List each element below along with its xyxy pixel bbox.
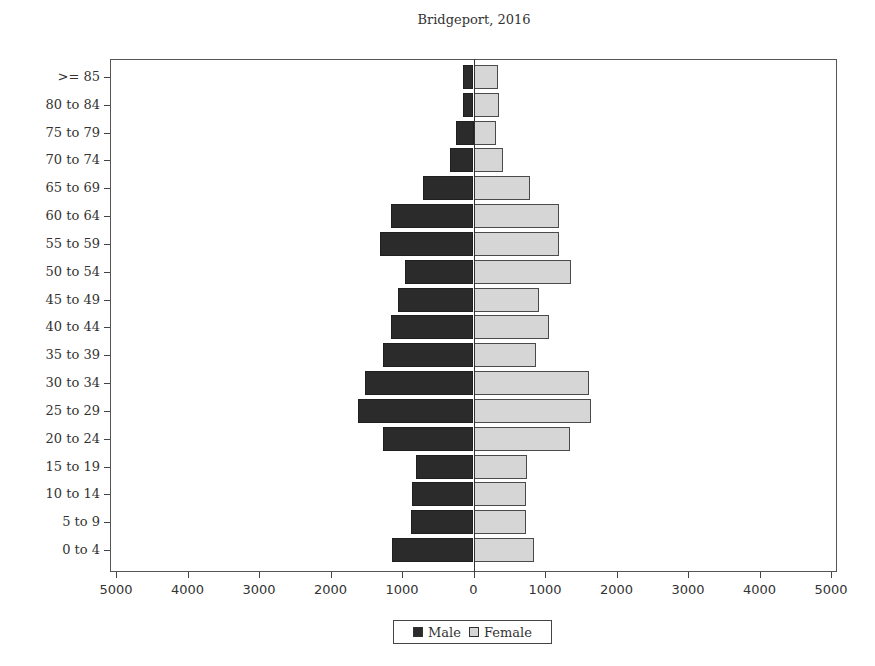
bar-male <box>411 510 473 534</box>
y-tick <box>104 355 110 356</box>
bar-male <box>405 260 474 284</box>
bar-male <box>392 538 474 562</box>
bar-male <box>423 176 474 200</box>
y-tick <box>104 77 110 78</box>
bar-female <box>474 65 498 89</box>
y-tick <box>104 300 110 301</box>
y-tick-label: 5 to 9 <box>62 514 100 530</box>
bar-female <box>474 399 592 423</box>
male-swatch-icon <box>413 627 423 637</box>
y-tick-label: 60 to 64 <box>46 208 100 224</box>
y-tick-label: 75 to 79 <box>46 125 100 141</box>
bar-female <box>474 288 539 312</box>
bar-male <box>463 93 473 117</box>
x-tick-label: 4000 <box>730 582 790 597</box>
x-tick-label: 5000 <box>801 582 861 597</box>
legend-item-female: Female <box>469 625 532 640</box>
bar-male <box>383 427 474 451</box>
legend-item-male: Male <box>413 625 461 640</box>
bar-male <box>383 343 473 367</box>
x-tick-label: 2000 <box>301 582 361 597</box>
y-tick <box>104 105 110 106</box>
x-tick <box>402 572 403 578</box>
bar-female <box>474 482 527 506</box>
population-pyramid-chart: Bridgeport, 2016 >= 8580 to 8475 to 7970… <box>0 0 875 666</box>
y-tick-label: 35 to 39 <box>46 347 100 363</box>
bar-male <box>391 315 474 339</box>
y-tick <box>104 494 110 495</box>
bar-female <box>474 510 527 534</box>
y-tick <box>104 439 110 440</box>
x-tick-label: 1000 <box>372 582 432 597</box>
chart-title: Bridgeport, 2016 <box>110 12 838 27</box>
legend-label-male: Male <box>428 625 461 640</box>
x-tick <box>760 572 761 578</box>
bar-male <box>380 232 474 256</box>
y-tick <box>104 327 110 328</box>
x-tick-label: 5000 <box>86 582 146 597</box>
x-tick <box>831 572 832 578</box>
bar-female <box>474 343 537 367</box>
bar-female <box>474 260 572 284</box>
bar-female <box>474 176 530 200</box>
y-tick-label: 40 to 44 <box>46 319 100 335</box>
y-tick <box>104 522 110 523</box>
y-tick <box>104 160 110 161</box>
y-tick-label: 0 to 4 <box>62 542 100 558</box>
x-tick <box>116 572 117 578</box>
x-tick <box>545 572 546 578</box>
y-tick-label: 20 to 24 <box>46 431 100 447</box>
bar-female <box>474 455 528 479</box>
x-tick-label: 3000 <box>229 582 289 597</box>
y-tick-label: 15 to 19 <box>46 459 100 475</box>
y-tick-label: 65 to 69 <box>46 180 100 196</box>
bar-male <box>416 455 473 479</box>
y-tick <box>104 244 110 245</box>
bar-male <box>463 65 473 89</box>
bar-female <box>474 315 550 339</box>
y-tick-label: 10 to 14 <box>46 486 100 502</box>
bar-male <box>398 288 473 312</box>
bar-female <box>474 427 571 451</box>
bar-male <box>365 371 474 395</box>
x-tick <box>188 572 189 578</box>
bar-male <box>456 121 474 145</box>
y-tick <box>104 467 110 468</box>
bar-male <box>412 482 473 506</box>
bar-female <box>474 232 560 256</box>
x-tick <box>617 572 618 578</box>
y-tick-label: 45 to 49 <box>46 292 100 308</box>
bar-male <box>391 204 474 228</box>
bar-female <box>474 538 535 562</box>
x-tick <box>474 572 475 578</box>
x-tick-label: 3000 <box>658 582 718 597</box>
legend-label-female: Female <box>484 625 532 640</box>
y-tick-label: 55 to 59 <box>46 236 100 252</box>
y-tick-label: >= 85 <box>58 69 100 85</box>
y-tick-label: 50 to 54 <box>46 264 100 280</box>
bar-female <box>474 148 503 172</box>
y-tick-label: 25 to 29 <box>46 403 100 419</box>
zero-line <box>474 59 475 572</box>
y-tick-label: 70 to 74 <box>46 152 100 168</box>
bar-male <box>358 399 474 423</box>
y-tick <box>104 133 110 134</box>
y-tick <box>104 411 110 412</box>
y-tick <box>104 272 110 273</box>
x-tick <box>259 572 260 578</box>
bar-female <box>474 93 499 117</box>
x-tick-label: 4000 <box>158 582 218 597</box>
female-swatch-icon <box>469 627 479 637</box>
x-tick <box>331 572 332 578</box>
y-tick <box>104 383 110 384</box>
y-tick <box>104 216 110 217</box>
y-tick-label: 30 to 34 <box>46 375 100 391</box>
x-tick-label: 2000 <box>587 582 647 597</box>
x-tick-label: 0 <box>444 582 504 597</box>
legend: Male Female <box>393 620 552 644</box>
bar-female <box>474 204 559 228</box>
bar-male <box>450 148 474 172</box>
y-tick-label: 80 to 84 <box>46 97 100 113</box>
x-tick-label: 1000 <box>515 582 575 597</box>
bar-female <box>474 121 497 145</box>
